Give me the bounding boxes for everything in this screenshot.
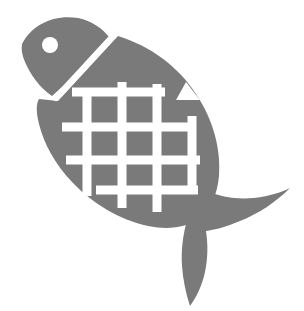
image-canvas [0, 0, 304, 311]
fish-eye [42, 37, 58, 53]
fish-pictogram [0, 0, 304, 311]
